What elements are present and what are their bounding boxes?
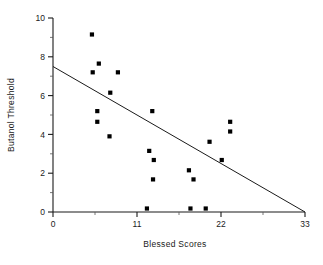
x-tick-label: 33 <box>300 219 310 229</box>
data-point-marker <box>228 120 232 124</box>
tick-labels-group: 02468100112233 <box>36 13 310 229</box>
plot-canvas: 02468100112233 Blessed Scores Butanol Th… <box>0 0 323 265</box>
data-point-marker <box>152 158 156 162</box>
data-point-marker <box>151 177 155 181</box>
data-point-marker <box>97 61 101 65</box>
regression-line <box>53 67 305 213</box>
y-tick-label: 2 <box>40 168 45 178</box>
scatter-chart: 02468100112233 Blessed Scores Butanol Th… <box>0 0 323 265</box>
axes-group <box>53 18 305 212</box>
x-axis-title: Blessed Scores <box>143 239 206 249</box>
data-point-marker <box>191 177 195 181</box>
y-tick-label: 0 <box>40 207 45 217</box>
data-point-marker <box>116 70 120 74</box>
data-point-marker <box>108 91 112 95</box>
data-point-marker <box>204 206 208 210</box>
x-tick-label: 11 <box>133 219 142 229</box>
data-point-marker <box>107 134 111 138</box>
x-tick-label: 0 <box>51 219 56 229</box>
data-point-marker <box>150 109 154 113</box>
regression-line-group <box>53 67 305 213</box>
data-point-marker <box>95 120 99 124</box>
data-point-marker <box>95 109 99 113</box>
data-point-marker <box>91 70 95 74</box>
data-point-marker <box>187 168 191 172</box>
data-point-marker <box>207 140 211 144</box>
y-axis-title: Butanol Threshold <box>6 78 16 152</box>
data-point-marker <box>147 149 151 153</box>
data-point-marker <box>90 32 94 36</box>
tick-marks-group <box>48 18 305 217</box>
data-point-marker <box>220 158 224 162</box>
y-tick-label: 4 <box>40 130 45 140</box>
data-point-marker <box>188 206 192 210</box>
data-point-marker <box>145 206 149 210</box>
y-tick-label: 8 <box>40 52 45 62</box>
data-points-group <box>90 32 232 210</box>
data-point-marker <box>228 129 232 133</box>
y-tick-label: 10 <box>36 13 46 23</box>
y-tick-label: 6 <box>40 91 45 101</box>
x-tick-label: 22 <box>216 219 226 229</box>
